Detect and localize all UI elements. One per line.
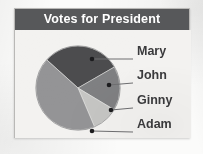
pie-label-mary: Mary: [137, 45, 166, 57]
chart-title-bar: Votes for President: [15, 9, 189, 30]
pie-chart-plot-area: Mary John Ginny Adam: [15, 30, 191, 138]
pie-label-john: John: [137, 69, 167, 81]
pie-label-ginny: Ginny: [137, 94, 172, 106]
callout-dot-mary: [90, 57, 95, 62]
leader-line-ginny: [111, 108, 133, 110]
leader-line-john: [109, 83, 133, 85]
page-title: Votes for President: [15, 9, 189, 30]
callout-dot-ginny: [109, 108, 114, 113]
callout-dot-adam: [90, 129, 95, 134]
callout-dot-john: [107, 83, 112, 88]
leader-line-adam: [92, 131, 133, 132]
chart-card: Votes for President Mary John Ginny Adam: [14, 8, 190, 138]
pie-label-adam: Adam: [137, 118, 172, 130]
